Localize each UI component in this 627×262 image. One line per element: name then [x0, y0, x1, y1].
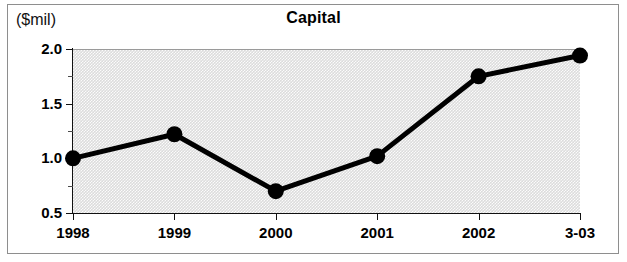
data-point-2000	[268, 183, 284, 199]
data-point-2002	[471, 68, 487, 84]
data-point-3-03	[572, 48, 588, 64]
data-point-1998	[65, 150, 81, 166]
data-series-layer	[0, 0, 627, 262]
series-line-capital	[73, 56, 580, 192]
data-point-2001	[369, 148, 385, 164]
data-point-1999	[166, 126, 182, 142]
chart-figure: ($mil) Capital 0.51.01.52.0 199819992000…	[0, 0, 627, 262]
